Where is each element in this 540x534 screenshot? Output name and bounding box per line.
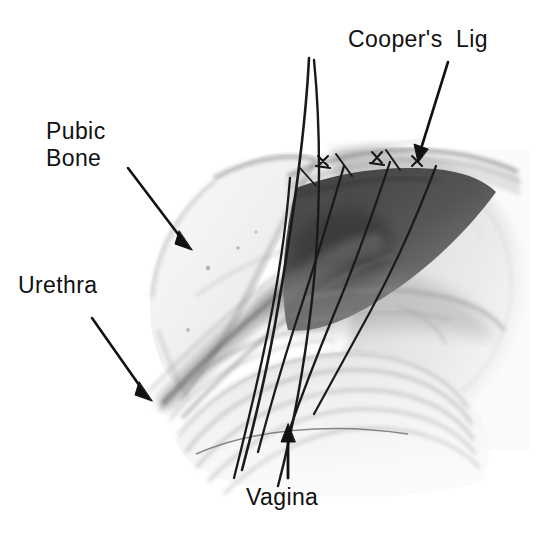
arrow-urethra <box>92 318 152 401</box>
arrow-coopers-lig <box>414 62 448 162</box>
label-pubic-bone-line1: Pubic <box>46 118 106 144</box>
arrow-pubic-bone <box>128 168 192 250</box>
label-vagina: Vagina <box>246 484 318 511</box>
illustration-canvas <box>0 0 540 534</box>
label-pubic-bone: PubicBone <box>46 118 106 172</box>
label-pubic-bone-line2: Bone <box>46 145 101 171</box>
anatomical-figure: Cooper's Lig PubicBone Urethra Vagina <box>0 0 540 534</box>
label-urethra: Urethra <box>18 272 98 299</box>
label-coopers-lig: Cooper's Lig <box>348 26 488 53</box>
tissue-group <box>148 142 530 497</box>
